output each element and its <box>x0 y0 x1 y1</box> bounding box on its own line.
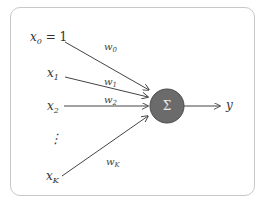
input-label-x1: x1 <box>47 66 59 82</box>
input-ellipsis: ⋮ <box>49 131 62 146</box>
input-label-xK: xK <box>46 169 60 185</box>
input-label-x0: x0 = 1 <box>30 30 67 46</box>
weight-label-w2: w2 <box>104 94 118 107</box>
weight-label-w0: w0 <box>104 41 118 54</box>
weight-label-wK: wK <box>106 156 121 169</box>
perceptron-diagram: x0 = 1 x1 x2 ⋮ xK w0 w1 w2 wK Σ y <box>0 0 266 209</box>
edge-xK <box>62 116 148 176</box>
sigma-symbol: Σ <box>163 99 171 113</box>
input-label-x2: x2 <box>47 99 59 115</box>
output-label-y: y <box>225 98 233 112</box>
